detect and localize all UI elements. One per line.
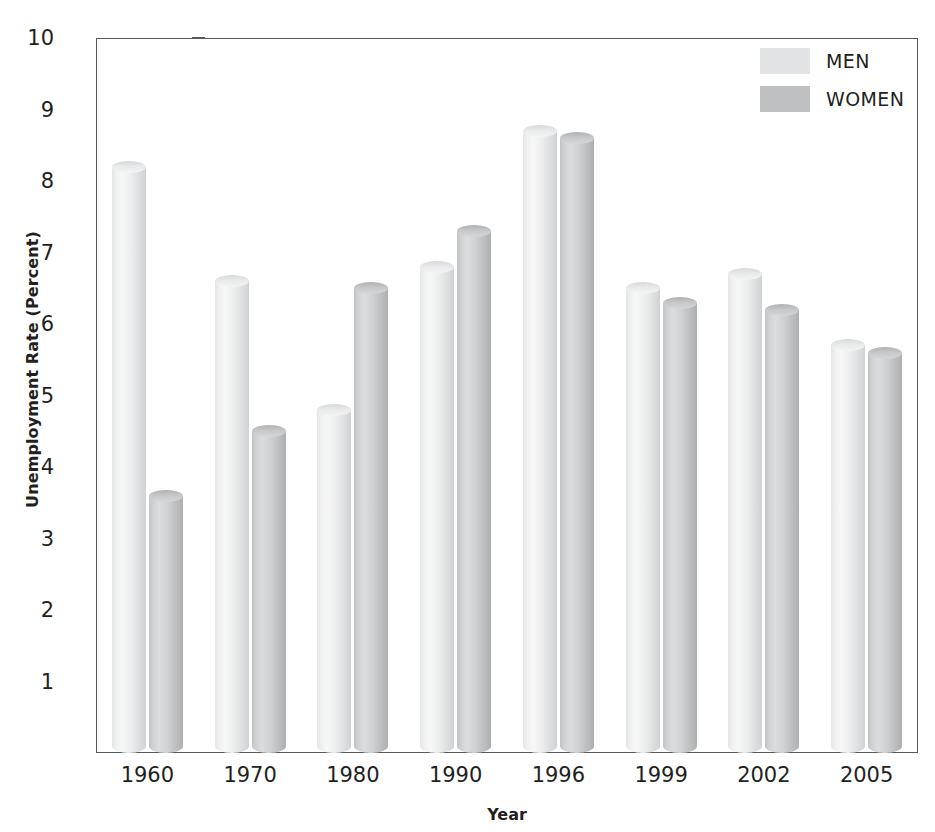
bar-body	[831, 345, 865, 753]
bar-body	[523, 131, 557, 753]
bar-cap	[663, 297, 697, 309]
legend-item-women: WOMEN	[760, 86, 910, 112]
bar-body	[149, 496, 183, 753]
bar-women-2005	[868, 353, 902, 753]
bar-cap	[420, 261, 454, 273]
bar-body	[626, 288, 660, 753]
bar-body	[560, 138, 594, 753]
bar-women-1999	[663, 303, 697, 753]
bar-cap	[523, 125, 557, 137]
bar-cap	[149, 490, 183, 502]
bar-women-1990	[457, 231, 491, 753]
chart-legend: MEN WOMEN	[760, 48, 910, 124]
legend-swatch-women-icon	[760, 86, 810, 112]
bar-men-1999	[626, 288, 660, 753]
y-tick-label: 7	[41, 238, 54, 268]
y-tick-label: 5	[41, 381, 54, 411]
bar-body	[112, 167, 146, 753]
x-tick-label-1970: 1970	[223, 763, 276, 787]
bar-women-1996	[560, 138, 594, 753]
y-axis-title: Unemployment Rate (Percent)	[23, 160, 42, 580]
x-axis: 19601970198019901996199920022005 Year	[96, 753, 918, 832]
bar-body	[420, 267, 454, 753]
unemployment-rate-bar-chart: 12345678910 Unemployment Rate (Percent) …	[0, 0, 935, 832]
bar-women-1980	[354, 288, 388, 753]
bar-cap	[728, 268, 762, 280]
bar-men-2002	[728, 274, 762, 753]
legend-label-men: MEN	[826, 50, 870, 72]
bar-cap	[868, 347, 902, 359]
x-tick-label-1980: 1980	[326, 763, 379, 787]
bar-body	[457, 231, 491, 753]
y-tick-label: 2	[41, 595, 54, 625]
bar-cap	[560, 132, 594, 144]
y-tick-label: 3	[41, 524, 54, 554]
legend-label-women: WOMEN	[826, 88, 904, 110]
bar-men-1970	[215, 281, 249, 753]
y-axis: 12345678910 Unemployment Rate (Percent)	[0, 0, 96, 832]
legend-swatch-men-icon	[760, 48, 810, 74]
bar-women-1960	[149, 496, 183, 753]
bar-men-2005	[831, 345, 865, 753]
y-tick-label: 1	[41, 667, 54, 697]
bar-cap	[765, 304, 799, 316]
bar-cap	[317, 404, 351, 416]
bar-cap	[215, 275, 249, 287]
x-tick-label-1990: 1990	[429, 763, 482, 787]
x-tick-label-2005: 2005	[840, 763, 893, 787]
bar-men-1996	[523, 131, 557, 753]
bar-body	[215, 281, 249, 753]
y-tick-label: 10	[27, 23, 54, 53]
bar-body	[252, 431, 286, 753]
x-tick-label-1999: 1999	[634, 763, 687, 787]
bar-body	[765, 310, 799, 753]
x-tick-label-1960: 1960	[121, 763, 174, 787]
bar-men-1990	[420, 267, 454, 753]
bar-men-1960	[112, 167, 146, 753]
y-tick-label: 6	[41, 309, 54, 339]
x-tick-label-2002: 2002	[737, 763, 790, 787]
bar-women-2002	[765, 310, 799, 753]
y-tick-label: 8	[41, 166, 54, 196]
legend-item-men: MEN	[760, 48, 910, 74]
bar-body	[868, 353, 902, 753]
bar-body	[663, 303, 697, 753]
bar-body	[728, 274, 762, 753]
bar-body	[317, 410, 351, 753]
y-tick-label: 4	[41, 452, 54, 482]
bars-layer	[96, 38, 918, 753]
x-tick-label-1996: 1996	[532, 763, 585, 787]
bar-women-1970	[252, 431, 286, 753]
bar-cap	[112, 161, 146, 173]
bar-body	[354, 288, 388, 753]
x-axis-title: Year	[96, 805, 918, 824]
bar-men-1980	[317, 410, 351, 753]
y-tick-label: 9	[41, 95, 54, 125]
